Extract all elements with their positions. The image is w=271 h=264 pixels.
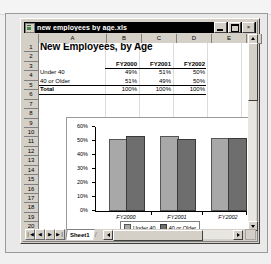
desktop-background: new employees by age.xls × A B C D E F xyxy=(0,0,271,264)
y-label-40: 40% xyxy=(77,152,88,158)
row-4: Under 40 49% 51% 50% xyxy=(39,68,256,76)
sheet-nav-buttons: ❘◀ ◀ ▶ ▶❘ xyxy=(25,229,65,240)
row-header-11[interactable]: 11 xyxy=(24,137,38,146)
bar-fy2001-40orolder[interactable] xyxy=(177,139,196,211)
y-tick-0: 0% xyxy=(92,210,95,211)
maximize-button[interactable] xyxy=(228,22,241,33)
cell-a1-title[interactable]: New Employees, by Age xyxy=(40,43,153,52)
sheet-tab-sheet1[interactable]: Sheet1 xyxy=(65,229,94,240)
sheet-nav-first[interactable]: ❘◀ xyxy=(25,229,35,240)
row-header-1[interactable]: 1 xyxy=(24,43,38,52)
y-tick-40: 40% xyxy=(92,154,95,155)
total-row-bottom-rule xyxy=(39,94,206,95)
bar-fy2002-40orolder[interactable] xyxy=(228,138,247,211)
row-header-10[interactable]: 10 xyxy=(24,128,38,137)
row-1: New Employees, by Age xyxy=(39,43,256,51)
scroll-left-button[interactable] xyxy=(103,230,113,240)
row-header-15[interactable]: 15 xyxy=(24,175,38,184)
embedded-bar-chart[interactable]: 0% 10% 20% 30% 40% 50% 60% xyxy=(66,117,256,231)
y-tick-20: 20% xyxy=(92,182,95,183)
sheet-tab-label: Sheet1 xyxy=(70,230,90,240)
cell-c5[interactable]: 49% xyxy=(141,77,171,85)
cell-c3[interactable]: FY2001 xyxy=(141,60,171,68)
x-tick-2 xyxy=(202,212,203,215)
vertical-scroll-thumb[interactable] xyxy=(248,43,258,101)
cell-b5[interactable]: 51% xyxy=(107,77,137,85)
sheet-nav-next[interactable]: ▶ xyxy=(45,229,55,240)
close-icon: × xyxy=(243,23,254,32)
row-header-8[interactable]: 8 xyxy=(24,109,38,118)
row-header-6[interactable]: 6 xyxy=(24,90,38,99)
horizontal-scrollbar[interactable] xyxy=(103,230,243,239)
spreadsheet-window: new employees by age.xls × A B C D E F xyxy=(20,18,260,244)
maximize-glyph xyxy=(229,23,240,32)
cell-a4[interactable]: Under 40 xyxy=(40,68,65,76)
x-axis-line xyxy=(95,211,247,212)
row-header-column: 1 2 3 4 5 6 7 8 9 10 11 12 13 14 xyxy=(24,43,39,231)
x-label-fy2001: FY2001 xyxy=(156,215,198,221)
y-label-50: 50% xyxy=(77,138,88,144)
cell-area[interactable]: New Employees, by Age FY2000 FY2001 FY20… xyxy=(39,43,256,231)
cell-d6[interactable]: 100% xyxy=(175,85,205,93)
row-header-9[interactable]: 9 xyxy=(24,119,38,128)
cell-c4[interactable]: 51% xyxy=(141,68,171,76)
cell-c6[interactable]: 100% xyxy=(141,85,171,93)
sheet-nav-last[interactable]: ▶❘ xyxy=(55,229,65,240)
cell-b6[interactable]: 100% xyxy=(107,85,137,93)
row-header-16[interactable]: 16 xyxy=(24,185,38,194)
y-tick-30: 30% xyxy=(92,168,95,169)
worksheet-grid[interactable]: 1 2 3 4 5 6 7 8 9 10 11 12 13 14 xyxy=(24,43,256,231)
row-header-7[interactable]: 7 xyxy=(24,100,38,109)
cell-b4[interactable]: 49% xyxy=(107,68,137,76)
minimize-glyph xyxy=(215,23,226,32)
y-label-20: 20% xyxy=(77,180,88,186)
y-label-0: 0% xyxy=(80,208,88,214)
x-label-fy2002: FY2002 xyxy=(207,215,249,221)
row-6: Total 100% 100% 100% xyxy=(39,85,256,93)
y-label-10: 10% xyxy=(77,194,88,200)
cell-d4[interactable]: 50% xyxy=(175,68,205,76)
horizontal-scroll-trough[interactable] xyxy=(113,230,233,239)
cell-b3[interactable]: FY2000 xyxy=(107,60,137,68)
y-label-30: 30% xyxy=(77,166,88,172)
cell-d3[interactable]: FY2002 xyxy=(175,60,205,68)
row-header-14[interactable]: 14 xyxy=(24,166,38,175)
row-3: FY2000 FY2001 FY2002 xyxy=(39,60,256,68)
row-header-5[interactable]: 5 xyxy=(24,81,38,90)
triangle-left-icon xyxy=(107,233,110,237)
row-header-2[interactable]: 2 xyxy=(24,52,38,61)
cell-a6[interactable]: Total xyxy=(40,85,54,93)
x-label-fy2000: FY2000 xyxy=(105,215,147,221)
row-header-18[interactable]: 18 xyxy=(24,203,38,212)
row-header-12[interactable]: 12 xyxy=(24,147,38,156)
y-tick-50: 50% xyxy=(92,140,95,141)
row-header-3[interactable]: 3 xyxy=(24,62,38,71)
y-label-60: 60% xyxy=(77,124,88,130)
resize-corner[interactable] xyxy=(245,229,256,240)
scroll-right-button[interactable] xyxy=(233,230,243,240)
row-header-19[interactable]: 19 xyxy=(24,213,38,222)
row-header-17[interactable]: 17 xyxy=(24,194,38,203)
window-title: new employees by age.xls xyxy=(37,24,214,31)
vertical-scroll-trough[interactable] xyxy=(248,43,256,221)
sheet-tab-separator: / xyxy=(95,231,97,238)
x-tick-1 xyxy=(151,212,152,215)
row-header-4[interactable]: 4 xyxy=(24,71,38,80)
vertical-scrollbar[interactable] xyxy=(248,34,256,231)
horizontal-scroll-thumb[interactable] xyxy=(113,230,203,241)
cell-a5[interactable]: 40 or Older xyxy=(40,77,70,85)
cell-d5[interactable]: 50% xyxy=(175,77,205,85)
excel-workbook-icon xyxy=(25,23,35,33)
window-titlebar[interactable]: new employees by age.xls × xyxy=(24,22,256,33)
sheet-nav-prev[interactable]: ◀ xyxy=(35,229,45,240)
row-header-13[interactable]: 13 xyxy=(24,156,38,165)
window-inner-bevel: new employees by age.xls × A B C D E F xyxy=(22,20,258,242)
bar-fy2000-40orolder[interactable] xyxy=(126,136,145,211)
minimize-button[interactable] xyxy=(214,22,227,33)
triangle-right-icon xyxy=(237,233,240,237)
triangle-up-icon xyxy=(251,37,255,40)
y-axis-line xyxy=(95,127,96,212)
y-tick-60: 60% xyxy=(92,126,95,127)
close-button[interactable]: × xyxy=(242,22,255,33)
column-header-row: A B C D E F xyxy=(24,34,256,43)
